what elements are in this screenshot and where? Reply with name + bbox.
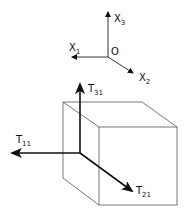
t21-label: T21 <box>135 185 151 199</box>
x2-label: X2 <box>139 72 150 86</box>
traction-vectors: T31 T11 T21 <box>12 83 151 199</box>
t21-vector <box>80 153 132 191</box>
t31-label: T31 <box>87 83 103 97</box>
coordinate-axes: X3 X1 O X2 <box>69 12 150 86</box>
x1-label: X1 <box>69 42 80 56</box>
x2-axis <box>108 57 133 73</box>
t11-label: T11 <box>15 134 31 148</box>
x3-label: X3 <box>114 13 125 27</box>
origin-label: O <box>111 46 119 57</box>
stress-diagram: X3 X1 O X2 T31 T11 T21 <box>0 0 187 215</box>
